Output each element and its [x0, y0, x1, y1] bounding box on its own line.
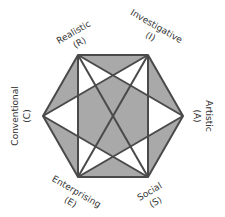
svg-text:(I): (I) [144, 30, 157, 44]
label-investigative: Investigative (I) [123, 7, 185, 55]
label-conventional: Conventional (C) [10, 86, 32, 145]
label-enterprising: Enterprising (E) [44, 174, 102, 217]
svg-text:Investigative: Investigative [129, 7, 185, 45]
svg-text:Conventional: Conventional [10, 86, 20, 145]
label-artistic: Artistic (A) [192, 100, 214, 132]
label-social: Social (S) [135, 181, 169, 213]
riasec-hexagon-diagram: Realistic (R) Investigative (I) Artistic… [0, 0, 225, 217]
svg-text:Artistic: Artistic [204, 100, 214, 132]
svg-text:(A): (A) [192, 109, 202, 122]
label-realistic: Realistic (R) [55, 18, 99, 56]
svg-text:(C): (C) [22, 109, 32, 122]
